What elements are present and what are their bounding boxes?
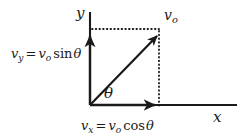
vx-argument: θ	[146, 118, 154, 133]
vx-magnitude-base: v	[108, 118, 115, 133]
vx-function: cos	[121, 118, 146, 133]
resultant-vector-base: v	[164, 7, 172, 23]
vx-equation-label: vx=vocosθ	[81, 119, 154, 135]
vy-function: sin	[51, 46, 73, 61]
vy-equals: =	[24, 46, 39, 61]
vx-equals: =	[94, 118, 109, 133]
vy-magnitude-base: v	[38, 46, 45, 61]
vector-resultant-arrow	[91, 36, 157, 104]
vx-subscript: x	[88, 125, 93, 135]
vector-decomposition-diagram: y x vo θ vy=vosinθ vx=vocosθ	[0, 0, 242, 140]
resultant-vector-subscript: o	[172, 14, 178, 25]
vy-subscript: y	[18, 53, 23, 63]
angle-theta-label: θ	[104, 86, 113, 101]
vy-equation-label: vy=vosinθ	[11, 47, 81, 63]
y-axis-label: y	[76, 6, 84, 21]
vy-argument: θ	[73, 46, 81, 61]
x-axis-label: x	[213, 110, 221, 125]
resultant-vector-label: vo	[164, 8, 178, 25]
